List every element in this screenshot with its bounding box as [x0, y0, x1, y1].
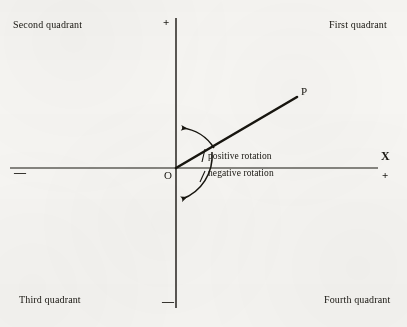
x-axis-positive-sign: +	[382, 170, 388, 181]
positive-rotation-label: positive rotation	[208, 152, 272, 162]
y-axis-negative-sign: —	[162, 295, 174, 307]
coordinate-plane-figure	[0, 0, 407, 327]
origin-label: O	[164, 170, 172, 181]
quadrant-label-second: Second quadrant	[13, 20, 82, 30]
diagram-canvas: Second quadrant First quadrant Third qua…	[0, 0, 407, 327]
quadrant-label-third: Third quadrant	[19, 295, 81, 305]
quadrant-label-first: First quadrant	[329, 20, 387, 30]
positive-rotation-arc	[182, 128, 214, 148]
x-axis-negative-sign: —	[14, 166, 26, 178]
y-axis-positive-sign: +	[163, 17, 169, 28]
x-axis-name: X	[381, 150, 390, 162]
negative-rotation-label: negative rotation	[208, 169, 274, 179]
quadrant-label-fourth: Fourth quadrant	[324, 295, 390, 305]
point-p-label: P	[301, 86, 307, 97]
